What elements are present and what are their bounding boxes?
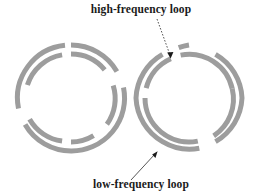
ring-arc-segment: [179, 45, 189, 48]
high-frequency-annotation: high-frequency loop: [91, 3, 191, 58]
low-frequency-label: low-frequency loop: [93, 178, 189, 191]
high-frequency-label: high-frequency loop: [91, 3, 191, 16]
left-low-frequency-loop: [17, 45, 124, 151]
figure-canvas: high-frequency loop low-frequency loop: [0, 0, 258, 195]
low-frequency-arrowhead: [152, 151, 157, 158]
right-low-frequency-loop: [136, 45, 242, 149]
high-frequency-leader-line: [157, 19, 170, 55]
low-frequency-leader-line: [131, 154, 155, 180]
left-loop-assembly: [17, 45, 124, 151]
ring-arc-segment: [71, 136, 94, 142]
left-high-frequency-loop: [27, 54, 115, 142]
right-loop-assembly: [136, 45, 242, 149]
right-high-frequency-loop: [145, 54, 233, 142]
loop-diagram: high-frequency loop low-frequency loop: [0, 0, 258, 195]
low-frequency-annotation: low-frequency loop: [93, 151, 189, 191]
ring-arc-segment: [107, 86, 115, 125]
